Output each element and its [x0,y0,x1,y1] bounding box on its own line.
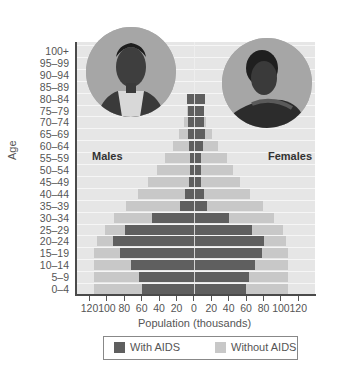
x-tick [124,296,125,301]
bar-males-with-aids [139,272,194,282]
bar-females-with-aids [194,153,201,163]
bar-males-with-aids [120,248,194,258]
x-tick [159,296,160,301]
bar-males-with-aids [185,189,194,199]
bar-males-with-aids [180,201,194,211]
bar-females-with-aids [194,213,229,223]
males-label: Males [92,150,123,162]
bar-males-with-aids [113,236,194,246]
bar-females-with-aids [194,106,204,116]
y-tick-label: 90–94 [20,69,69,81]
legend: With AIDS Without AIDS [103,336,298,360]
center-line [194,42,195,294]
y-tick-label: 5–9 [20,271,69,283]
x-tick [89,296,90,301]
females-label: Females [268,150,312,162]
bar-females-with-aids [194,165,201,175]
x-tick [141,296,142,301]
bar-females-with-aids [194,177,201,187]
x-tick [298,296,299,301]
bar-females-with-aids [194,117,204,127]
x-tick [228,296,229,301]
x-tick [280,296,281,301]
y-tick-label: 65–69 [20,128,69,140]
y-tick-label: 35–39 [20,200,69,212]
x-tick [193,296,194,301]
male-portrait-image [86,27,176,117]
bar-females-with-aids [194,141,203,151]
bar-males-without-aids [148,177,194,187]
bar-females-with-aids [194,225,252,235]
x-tick [246,296,247,301]
y-tick-label: 100+ [20,45,69,57]
bar-males-without-aids [157,165,194,175]
x-tick [263,296,264,301]
bar-females-with-aids [194,284,246,294]
y-axis-title: Age [6,140,18,160]
y-tick-label: 20–24 [20,235,69,247]
y-tick-label: 40–44 [20,188,69,200]
y-tick-label: 95–99 [20,57,69,69]
bar-females-with-aids [194,201,207,211]
bar-males-with-aids [125,225,194,235]
y-tick-label: 85–89 [20,81,69,93]
y-tick-label: 70–74 [20,116,69,128]
bar-males-with-aids [187,94,194,104]
bar-males-with-aids [152,213,194,223]
legend-label-without-aids: Without AIDS [231,341,296,353]
y-tick-label: 60–64 [20,140,69,152]
y-tick-label: 15–19 [20,247,69,259]
y-tick-label: 30–34 [20,212,69,224]
y-tick-label: 55–59 [20,152,69,164]
x-axis-title: Population (thousands) [0,317,339,329]
x-tick [211,296,212,301]
y-tick-label: 50–54 [20,164,69,176]
bar-females-with-aids [194,189,204,199]
female-portrait-image [222,38,312,128]
y-axis-line [75,42,77,296]
y-tick-label: 45–49 [20,176,69,188]
x-tick [176,296,177,301]
bar-females-with-aids [194,236,264,246]
x-tick-label: 120 [283,302,313,314]
y-tick-label: 25–29 [20,224,69,236]
y-tick-label: 80–84 [20,93,69,105]
y-tick-label: 10–14 [20,259,69,271]
legend-label-with-aids: With AIDS [130,341,180,353]
bar-females-with-aids [194,248,262,258]
bar-males-with-aids [131,260,194,270]
legend-swatch-with-aids [114,342,125,353]
x-tick [106,296,107,301]
y-tick-label: 0–4 [20,283,69,295]
bar-females-with-aids [194,94,205,104]
legend-swatch-without-aids [215,342,226,353]
bar-males-with-aids [142,284,194,294]
y-tick-label: 75–79 [20,105,69,117]
bar-females-with-aids [194,272,249,282]
bar-females-with-aids [194,129,205,139]
bar-females-with-aids [194,260,255,270]
